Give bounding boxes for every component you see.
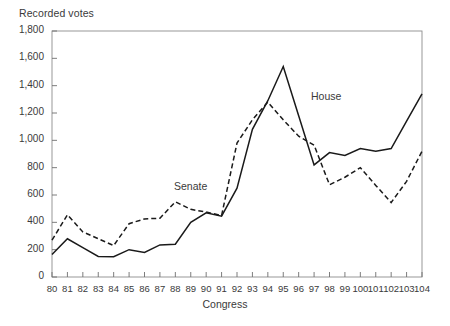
x-tick-label: 80 <box>47 283 58 294</box>
series-label-house: House <box>311 90 341 102</box>
y-tick-label: 1,200 <box>2 106 44 117</box>
y-tick-label: 1,000 <box>2 133 44 144</box>
x-tick-label: 83 <box>93 283 104 294</box>
y-tick-label: 200 <box>2 243 44 254</box>
series-label-senate: Senate <box>174 180 207 192</box>
plot-border <box>52 31 422 277</box>
series-lines <box>52 67 422 257</box>
x-tick-label: 97 <box>309 283 320 294</box>
x-tick-label: 82 <box>78 283 89 294</box>
x-tick-label: 96 <box>293 283 304 294</box>
y-tick-label: 1,600 <box>2 51 44 62</box>
series-line-senate <box>52 102 422 246</box>
y-tick-label: 800 <box>2 161 44 172</box>
x-tick-label: 93 <box>247 283 258 294</box>
y-tick-label: 1,400 <box>2 79 44 90</box>
x-tick-label: 91 <box>216 283 227 294</box>
x-tick-label: 102 <box>383 283 399 294</box>
x-tick-label: 89 <box>185 283 196 294</box>
x-tick-label: 81 <box>62 283 73 294</box>
y-tick-label: 0 <box>2 270 44 281</box>
x-tick-label: 92 <box>232 283 243 294</box>
x-tick-label: 98 <box>324 283 335 294</box>
x-tick-label: 85 <box>124 283 135 294</box>
series-line-house <box>52 67 422 257</box>
x-tick-label: 84 <box>108 283 119 294</box>
x-tick-label: 99 <box>340 283 351 294</box>
x-axis-title: Congress <box>0 298 450 310</box>
x-tick-label: 86 <box>139 283 150 294</box>
y-tick-label: 400 <box>2 215 44 226</box>
x-tick-label: 87 <box>155 283 166 294</box>
x-tick-label: 88 <box>170 283 181 294</box>
x-tick-marks <box>52 272 422 277</box>
x-tick-label: 101 <box>368 283 384 294</box>
x-tick-label: 103 <box>399 283 415 294</box>
plot-area <box>0 0 450 326</box>
x-tick-label: 94 <box>263 283 274 294</box>
y-tick-label: 1,800 <box>2 24 44 35</box>
x-tick-label: 104 <box>414 283 430 294</box>
chart-figure: Recorded votes 02004006008001,0001,2001,… <box>0 0 450 326</box>
x-tick-label: 95 <box>278 283 289 294</box>
y-tick-label: 600 <box>2 188 44 199</box>
x-tick-label: 100 <box>352 283 368 294</box>
x-tick-label: 90 <box>201 283 212 294</box>
axis-lines <box>52 31 422 277</box>
